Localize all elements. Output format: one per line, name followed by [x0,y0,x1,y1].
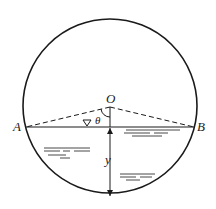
water-hatching [44,130,180,180]
label-point-b: B [197,119,205,134]
label-center-o: O [106,91,116,106]
free-surface-triangle-icon [83,120,91,126]
label-depth-y: y [103,152,111,167]
label-angle-theta: θ [95,114,101,126]
arrow-up-icon [107,128,113,134]
radius-ob-dashed [110,107,194,127]
angle-theta-arc [101,109,110,117]
label-point-a: A [12,119,21,134]
conduit-diagram: O A B θ y [0,0,216,209]
